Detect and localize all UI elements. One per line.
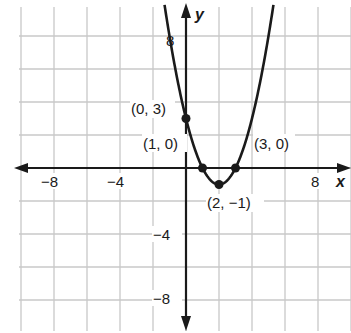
label-3-0: (3, 0): [254, 135, 289, 152]
point-2-neg1: [215, 180, 224, 189]
tick-y-neg8: −8: [153, 290, 170, 307]
tick-labels: −8 −4 8 8 −4 −8 x y: [40, 6, 346, 307]
point-0-3: [182, 114, 191, 123]
tick-x-neg4: −4: [107, 173, 124, 190]
y-axis-down-arrow-icon: [181, 316, 191, 331]
x-axis-label: x: [335, 173, 346, 190]
graph-figure: −8 −4 8 8 −4 −8 x y (0, 3) (1,: [0, 0, 351, 333]
label-0-3: (0, 3): [131, 100, 166, 117]
coordinate-plane: −8 −4 8 8 −4 −8 x y (0, 3) (1,: [0, 0, 351, 333]
x-axis-right-arrow-icon: [337, 163, 351, 173]
point-labels: (0, 3) (1, 0) (3, 0) (2, −1): [130, 100, 295, 212]
label-2-neg1: (2, −1): [207, 194, 251, 211]
point-1-0: [198, 164, 207, 173]
y-axis-up-arrow-icon: [181, 3, 191, 18]
points: [182, 114, 241, 189]
axes: [14, 3, 351, 331]
tick-x-8: 8: [311, 173, 319, 190]
y-axis-label: y: [194, 6, 205, 23]
tick-y-neg4: −4: [153, 226, 170, 243]
point-3-0: [231, 164, 240, 173]
label-1-0: (1, 0): [143, 135, 178, 152]
tick-x-neg8: −8: [41, 173, 58, 190]
